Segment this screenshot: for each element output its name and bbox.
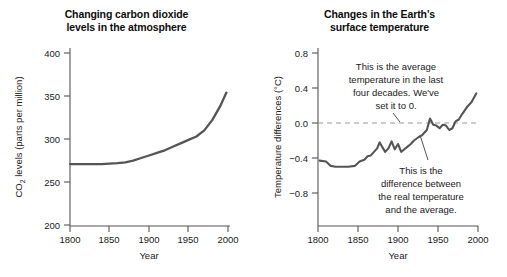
co2-ytick-label-250: 250 (44, 177, 60, 188)
co2-data-line (70, 93, 226, 165)
temperature-chart-panel: Changes in the Earth's surface temperatu… (253, 0, 506, 277)
co2-ytick-label-300: 300 (44, 134, 60, 145)
co2-ytick-label-200: 200 (44, 220, 60, 231)
annotation-difference-line2: difference between (381, 178, 461, 189)
temperature-ytick-label-neg0_4: −0.4 (289, 153, 308, 164)
co2-x-axis-title: Year (139, 250, 158, 261)
svg-text:CO2 levels (parts per million): CO2 levels (parts per million) (13, 76, 26, 197)
annotation-average-line3: four decades. We've (353, 87, 439, 98)
co2-plot: 400 350 300 250 200 1800 1850 1900 1950 … (0, 0, 253, 277)
annotation-difference-line3: the real temperature (378, 191, 464, 202)
temperature-xtick-label-1800: 1800 (307, 234, 328, 245)
annotation-average-line2: temperature in the last (349, 74, 444, 85)
annotation-average-leader-line (393, 113, 400, 122)
co2-xtick-label-1900: 1900 (138, 234, 159, 245)
co2-y-axis-title-pre: CO (13, 183, 24, 197)
co2-xtick-label-1950: 1950 (177, 234, 198, 245)
temperature-xtick-label-1900: 1900 (387, 234, 408, 245)
temperature-ytick-label-0_8: 0.8 (295, 48, 308, 59)
temperature-ytick-label-0_0: 0.0 (295, 118, 308, 129)
temperature-xtick-label-1850: 1850 (347, 234, 368, 245)
temperature-xtick-label-1950: 1950 (427, 234, 448, 245)
co2-xtick-label-1850: 1850 (98, 234, 119, 245)
temperature-xtick-label-2000: 2000 (467, 234, 488, 245)
temperature-plot: 0.8 0.4 0.0 −0.4 −0.8 1800 1850 1900 195… (253, 0, 507, 277)
annotation-average-note: This is the average temperature in the l… (349, 61, 444, 122)
co2-chart-panel: Changing carbon dioxide levels in the at… (0, 0, 253, 277)
co2-ytick-label-400: 400 (44, 48, 60, 59)
temperature-x-ticks (318, 226, 478, 232)
co2-x-ticks (70, 226, 228, 232)
annotation-difference-leader-line (420, 135, 428, 160)
co2-y-ticks (64, 53, 70, 225)
annotation-difference-note: This is the difference between the real … (378, 135, 464, 215)
temperature-y-ticks (312, 53, 318, 193)
temperature-ytick-label-0_4: 0.4 (295, 83, 308, 94)
co2-xtick-label-1800: 1800 (59, 234, 80, 245)
co2-y-axis-title: CO2 levels (parts per million) (13, 76, 26, 197)
co2-y-axis-title-post: levels (parts per million) (13, 76, 24, 179)
temperature-ytick-label-neg0_8: −0.8 (289, 188, 308, 199)
climate-figure: Changing carbon dioxide levels in the at… (0, 0, 507, 277)
annotation-difference-line4: and the average. (385, 204, 456, 215)
temperature-x-axis-title: Year (388, 250, 407, 261)
annotation-difference-line1: This is the (399, 165, 442, 176)
co2-ytick-label-350: 350 (44, 91, 60, 102)
annotation-average-line1: This is the average (356, 61, 436, 72)
annotation-average-line4: set it to 0. (375, 100, 416, 111)
temperature-y-axis-title: Temperature differences (°C) (272, 76, 283, 198)
co2-xtick-label-2000: 2000 (217, 234, 238, 245)
